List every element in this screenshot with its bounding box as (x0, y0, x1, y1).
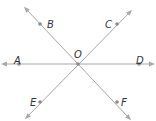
point-o (76, 62, 80, 66)
point-f (115, 100, 119, 104)
label-b: B (47, 19, 54, 30)
label-d: D (136, 55, 144, 66)
label-f: F (121, 97, 127, 108)
point-e (38, 100, 42, 104)
label-a: A (13, 55, 21, 66)
geometry-diagram: ABCDEF O (0, 0, 156, 121)
label-e: E (30, 97, 37, 108)
point-c (115, 22, 119, 26)
label-c: C (105, 19, 112, 30)
point-b (38, 22, 42, 26)
label-center: O (74, 49, 82, 60)
